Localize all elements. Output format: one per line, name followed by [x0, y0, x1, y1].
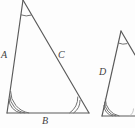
- small-triangle: [102, 31, 135, 116]
- large-triangle-bottom-left-angle-mark: [9, 91, 29, 113]
- small-triangle-apex-angle-mark: [118, 43, 127, 44]
- side-label-b: B: [42, 116, 48, 126]
- side-label-a: A: [1, 50, 7, 60]
- small-triangle-bottom-left-angle-mark: [104, 99, 120, 116]
- side-label-d: D: [99, 67, 106, 77]
- large-triangle: [7, 0, 89, 113]
- large-triangle-side-c: [23, 0, 89, 113]
- side-label-c: C: [58, 50, 65, 60]
- geometry-figure: A C B D: [0, 0, 135, 128]
- small-triangle-hypotenuse: [121, 31, 135, 55]
- large-triangle-bottom-right-angle-mark: [70, 97, 81, 113]
- geometry-canvas: [0, 0, 135, 128]
- large-triangle-apex-angle-mark: [21, 15, 32, 16]
- small-triangle-bottom-right-angle-mark: [130, 109, 134, 117]
